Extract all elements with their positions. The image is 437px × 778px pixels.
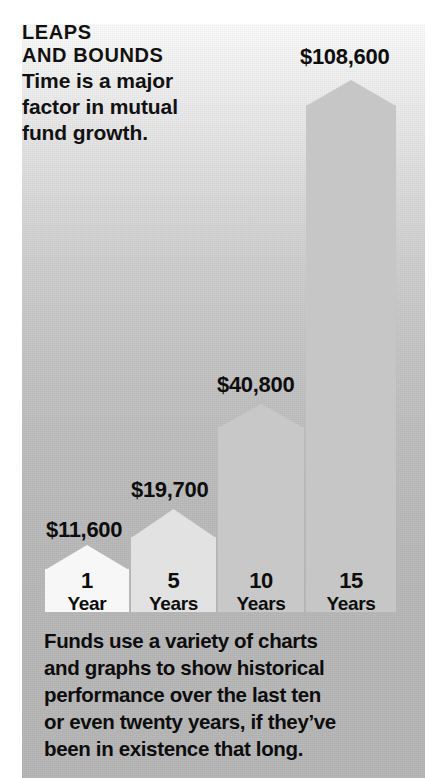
headline-line-2: AND BOUNDS — [22, 44, 262, 67]
tick-label-10-years: 10 Years — [218, 570, 304, 613]
value-label-10-years: $40,800 — [217, 372, 294, 398]
caption-line-1: Funds use a variety of charts — [44, 627, 406, 654]
headline-subline-1: Time is a major — [22, 68, 262, 93]
tick-number-15-years: 15 — [306, 570, 396, 592]
bar-body-15-years — [306, 105, 396, 612]
value-label-15-years: $108,600 — [300, 44, 389, 70]
caption-line-5: been in existence that long. — [44, 735, 406, 762]
tick-unit-10-years: Years — [218, 594, 304, 613]
bar-15-years — [306, 80, 396, 612]
bar-roof-10-years — [218, 404, 304, 428]
headline-subline-2: factor in mutual — [22, 94, 262, 119]
value-label-1-year: $11,600 — [46, 517, 122, 543]
caption-line-2: and graphs to show historical — [44, 654, 406, 681]
tick-number-5-years: 5 — [131, 570, 216, 592]
bar-roof-5-years — [131, 509, 216, 538]
caption-line-4: or even twenty years, if they’ve — [44, 708, 406, 735]
tick-label-15-years: 15 Years — [306, 570, 396, 613]
headline-block: LEAPS AND BOUNDS Time is a major factor … — [22, 21, 262, 145]
bar-roof-1-year — [45, 545, 129, 570]
caption-line-3: performance over the last ten — [44, 681, 406, 708]
bar-shape-15-years — [306, 80, 396, 612]
tick-unit-5-years: Years — [131, 594, 216, 613]
headline-line-1: LEAPS — [22, 21, 262, 44]
tick-number-1-year: 1 — [45, 570, 129, 592]
tick-label-1-year: 1 Year — [45, 570, 129, 613]
value-label-5-years: $19,700 — [131, 477, 208, 503]
tick-number-10-years: 10 — [218, 570, 304, 592]
tick-label-5-years: 5 Years — [131, 570, 216, 613]
tick-unit-1-year: Year — [45, 594, 129, 613]
infographic-root: LEAPS AND BOUNDS Time is a major factor … — [0, 0, 437, 778]
tick-unit-15-years: Years — [306, 594, 396, 613]
headline-subline-3: fund growth. — [22, 120, 262, 145]
caption-block: Funds use a variety of charts and graphs… — [44, 627, 406, 762]
bar-roof-15-years — [306, 80, 396, 106]
